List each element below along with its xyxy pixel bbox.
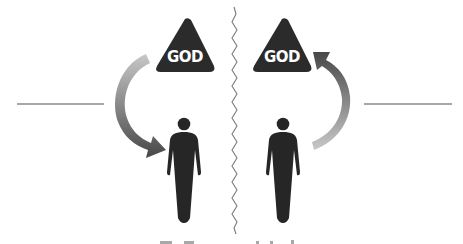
diagram: GOD GOD xyxy=(0,0,463,244)
right-person-figure xyxy=(266,118,300,223)
left-person-figure xyxy=(167,118,201,223)
left-god-label: GOD xyxy=(167,48,203,66)
left-god-triangle: GOD xyxy=(156,18,214,72)
cut-off-caption-fragments xyxy=(160,240,294,244)
right-god-label: GOD xyxy=(264,48,300,66)
zigzag-divider xyxy=(232,7,237,234)
right-curved-arrow-up xyxy=(312,52,350,150)
right-god-triangle: GOD xyxy=(253,18,311,72)
